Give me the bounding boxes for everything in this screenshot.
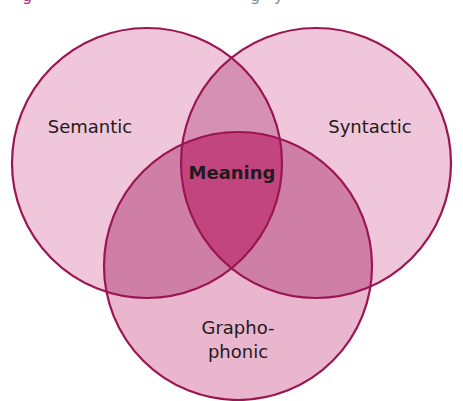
label-syntactic: Syntactic xyxy=(328,116,411,137)
venn-diagram: Semantic Syntactic Meaning Grapho- phoni… xyxy=(0,0,463,401)
label-meaning: Meaning xyxy=(189,162,276,183)
label-graphophonic-line2: phonic xyxy=(208,341,268,362)
label-graphophonic-line1: Grapho- xyxy=(201,317,274,338)
label-semantic: Semantic xyxy=(48,116,132,137)
